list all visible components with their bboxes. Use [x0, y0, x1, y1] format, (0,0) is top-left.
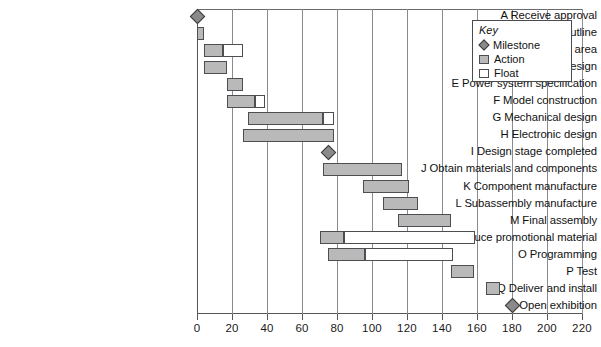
- action-bar-m: [398, 214, 451, 227]
- gridline-40: [267, 9, 268, 314]
- x-tick-100: [372, 314, 373, 320]
- float-bar-c: [223, 44, 242, 57]
- row-label-p: P Test: [405, 265, 601, 277]
- row-label-l: L Subassembly manufacture: [405, 197, 601, 209]
- legend-item-label: Milestone: [493, 39, 540, 51]
- x-tick-120: [407, 314, 408, 320]
- x-tick-20: [232, 314, 233, 320]
- x-tick-label-40: 40: [247, 322, 287, 334]
- x-tick-label-0: 0: [177, 322, 217, 334]
- legend-items: MilestoneActionFloat: [479, 38, 566, 80]
- action-bar-p: [451, 265, 474, 278]
- legend-title: Key: [479, 24, 566, 36]
- float-bar-o: [365, 248, 453, 261]
- x-tick-label-60: 60: [282, 322, 322, 334]
- row-label-j: J Obtain materials and components: [405, 162, 601, 174]
- action-bar-e: [227, 78, 243, 91]
- action-bar-g: [248, 112, 323, 125]
- x-tick-label-120: 120: [387, 322, 427, 334]
- x-tick-200: [547, 314, 548, 320]
- row-label-i: I Design stage completed: [405, 145, 601, 157]
- float-bar-g: [323, 112, 334, 125]
- legend-item-label: Float: [494, 67, 518, 79]
- legend: Key MilestoneActionFloat: [472, 20, 572, 82]
- gridline-60: [302, 9, 303, 314]
- legend-item-label: Action: [494, 53, 525, 65]
- row-label-g: G Mechanical design: [405, 111, 601, 123]
- milestone-swatch-icon: [478, 39, 489, 50]
- action-bar-c: [204, 44, 223, 57]
- x-tick-label-140: 140: [422, 322, 462, 334]
- row-label-f: F Model construction: [405, 94, 601, 106]
- action-swatch-icon: [479, 55, 489, 64]
- gantt-chart: 020406080100120140160180200220 A Receive…: [0, 0, 601, 347]
- x-tick-40: [267, 314, 268, 320]
- x-tick-label-80: 80: [317, 322, 357, 334]
- action-bar-q: [486, 282, 500, 295]
- legend-item-float: Float: [479, 66, 566, 80]
- row-label-q: Q Deliver and install: [405, 282, 601, 294]
- float-bar-f: [255, 95, 266, 108]
- action-bar-d: [204, 61, 227, 74]
- x-tick-label-180: 180: [492, 322, 532, 334]
- row-label-k: K Component manufacture: [405, 180, 601, 192]
- x-tick-label-220: 220: [562, 322, 601, 334]
- row-label-r: R Open exhibition: [405, 299, 601, 311]
- gridline-80: [337, 9, 338, 314]
- x-tick-label-160: 160: [457, 322, 497, 334]
- legend-item-milestone: Milestone: [479, 38, 566, 52]
- action-bar-f: [227, 95, 255, 108]
- x-tick-0: [197, 314, 198, 320]
- action-bar-o: [328, 248, 365, 261]
- float-bar-n: [344, 231, 475, 244]
- legend-item-action: Action: [479, 52, 566, 66]
- x-tick-180: [512, 314, 513, 320]
- action-bar-j: [323, 163, 402, 176]
- x-tick-label-20: 20: [212, 322, 252, 334]
- x-tick-220: [582, 314, 583, 320]
- float-swatch-icon: [479, 69, 489, 78]
- x-tick-60: [302, 314, 303, 320]
- action-bar-h: [243, 129, 334, 142]
- x-tick-160: [477, 314, 478, 320]
- x-tick-140: [442, 314, 443, 320]
- action-bar-k: [363, 180, 409, 193]
- gridline-100: [372, 9, 373, 314]
- row-label-h: H Electronic design: [405, 128, 601, 140]
- x-tick-80: [337, 314, 338, 320]
- x-tick-label-200: 200: [527, 322, 567, 334]
- x-tick-label-100: 100: [352, 322, 392, 334]
- action-bar-l: [383, 197, 418, 210]
- action-bar-n: [320, 231, 345, 244]
- action-bar-b: [197, 27, 204, 40]
